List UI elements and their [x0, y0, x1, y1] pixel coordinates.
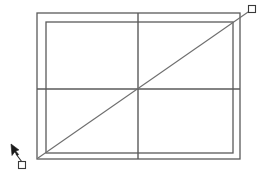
grip-handle-top-right[interactable]	[249, 6, 256, 13]
cad-drawing-surface[interactable]	[0, 0, 261, 176]
diagonal-construction-line[interactable]	[38, 10, 251, 158]
grip-handle-bottom-left[interactable]	[19, 162, 26, 169]
arrow-cursor-icon	[11, 144, 19, 156]
drawing-canvas[interactable]	[0, 0, 261, 176]
